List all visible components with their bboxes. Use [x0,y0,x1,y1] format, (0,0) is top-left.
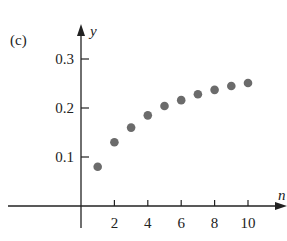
data-point [144,111,153,120]
x-axis-label: n [278,187,286,203]
y-tick-label: 0.1 [55,149,74,165]
data-point [127,123,136,132]
data-point [110,138,119,147]
data-point [194,90,203,99]
x-tick-label: 4 [144,215,152,231]
data-point [227,82,236,91]
panel-label: (c) [10,32,27,49]
chart: (c) y n 2468100.10.20.3 [0,0,287,241]
y-axis-label: y [88,23,97,39]
data-point [93,163,102,172]
ticks: 2468100.10.20.3 [55,51,255,231]
data-points [93,79,252,171]
y-tick-label: 0.3 [55,51,74,67]
data-point [160,102,169,111]
data-point [210,86,219,95]
data-point [177,96,186,105]
x-tick-label: 6 [177,215,185,231]
y-axis-arrow-icon [77,24,85,36]
x-axis-arrow-icon [275,202,287,210]
data-point [244,79,253,88]
x-tick-label: 2 [111,215,119,231]
x-tick-label: 10 [241,215,256,231]
x-tick-label: 8 [211,215,219,231]
y-tick-label: 0.2 [55,100,74,116]
